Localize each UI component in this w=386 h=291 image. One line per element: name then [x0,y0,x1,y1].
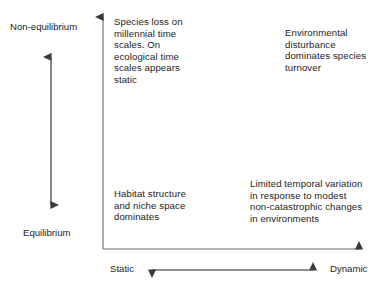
diagram-canvas: Species loss on millennial time scales. … [0,0,386,291]
axis-label-static: Static [110,263,134,275]
axis-label-equilibrium: Equilibrium [23,227,70,239]
axis-label-non-equilibrium: Non-equilibrium [10,21,77,33]
quadrant-text-top-right: Environmental disturbance dominates spec… [285,27,377,73]
axis-label-dynamic: Dynamic [330,263,367,275]
quadrant-text-bottom-right: Limited temporal variation in response t… [250,178,368,224]
quadrant-text-bottom-left: Habitat structure and niche space domina… [114,188,198,223]
quadrant-text-top-left: Species loss on millennial time scales. … [114,16,192,86]
